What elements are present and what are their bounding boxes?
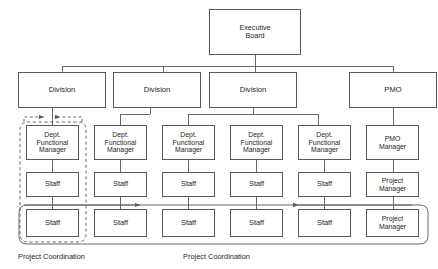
node-dept-functional-manager-5: Dept. Functional Manager: [298, 125, 351, 160]
node-label: Staff: [113, 219, 128, 227]
node-staff-2-4: Staff: [230, 209, 283, 237]
node-dept-functional-manager-3: Dept. Functional Manager: [162, 125, 215, 160]
node-label: Dept. Functional Manager: [105, 131, 137, 154]
node-division-2: Division: [113, 72, 201, 108]
node-label: Division: [144, 86, 171, 95]
node-project-manager-2: Project Manager: [366, 209, 419, 237]
node-division-3: Division: [209, 72, 297, 108]
node-project-manager-1: Project Manager: [366, 172, 419, 197]
node-dept-functional-manager-1: Dept. Functional Manager: [26, 125, 79, 160]
node-label: Staff: [317, 180, 332, 188]
node-staff-1-4: Staff: [230, 172, 283, 197]
node-executive-board: Executive Board: [209, 9, 301, 55]
caption-project-coordination-right: Project Coordination: [183, 252, 250, 261]
node-staff-1-5: Staff: [298, 172, 351, 197]
node-label: Project Manager: [379, 177, 406, 192]
node-label: Dept. Functional Manager: [37, 131, 69, 154]
node-label: Division: [240, 86, 267, 95]
node-label: Staff: [249, 180, 264, 188]
node-staff-2-3: Staff: [162, 209, 215, 237]
node-label: Staff: [249, 219, 264, 227]
node-staff-1-2: Staff: [94, 172, 147, 197]
coordination-arrows-top: [24, 117, 82, 122]
node-label: Dept. Functional Manager: [241, 131, 273, 154]
node-label: PMO Manager: [379, 135, 406, 150]
node-label: Division: [49, 86, 76, 95]
node-label: Staff: [181, 180, 196, 188]
node-label: Staff: [181, 219, 196, 227]
node-dept-functional-manager-2: Dept. Functional Manager: [94, 125, 147, 160]
caption-project-coordination-left: Project Coordination: [18, 252, 85, 261]
node-label: Dept. Functional Manager: [173, 131, 205, 154]
node-pmo: PMO: [349, 72, 437, 108]
node-staff-2-2: Staff: [94, 209, 147, 237]
node-label: Staff: [45, 219, 60, 227]
org-chart-diagram: Executive Board Division Division Divisi…: [0, 0, 438, 269]
node-dept-functional-manager-4: Dept. Functional Manager: [230, 125, 283, 160]
node-label: Project Manager: [379, 215, 406, 230]
node-label: PMO: [384, 86, 401, 95]
node-staff-1-3: Staff: [162, 172, 215, 197]
node-label: Executive Board: [239, 24, 270, 40]
node-pmo-manager: PMO Manager: [366, 125, 419, 160]
node-label: Dept. Functional Manager: [309, 131, 341, 154]
node-division-1: Division: [18, 72, 106, 108]
node-staff-2-5: Staff: [298, 209, 351, 237]
node-label: Staff: [45, 180, 60, 188]
node-label: Staff: [317, 219, 332, 227]
node-label: Staff: [113, 180, 128, 188]
node-staff-2-1: Staff: [26, 209, 79, 237]
node-staff-1-1: Staff: [26, 172, 79, 197]
